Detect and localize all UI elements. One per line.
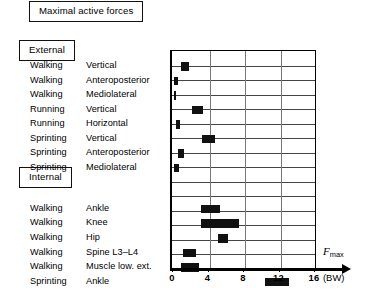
bar-3: [192, 106, 204, 115]
plot-area: [170, 50, 316, 268]
bar-0: [181, 62, 189, 71]
row-measure: Vertical: [86, 102, 117, 117]
axis-variable-label: Fmax: [323, 245, 344, 259]
row-label-walking-spine-l3-l4: WalkingSpine L3–L4: [30, 245, 180, 260]
grid-line-vertical-12: [281, 51, 282, 268]
row-label-sprinting-mediolateral: SprintingMediolateral: [30, 160, 180, 175]
grid-line-vertical-4: [210, 51, 211, 268]
grid-line-horizontal: [172, 124, 315, 125]
row-activity: Sprinting: [30, 145, 67, 160]
grid-line-horizontal: [172, 66, 315, 67]
bar-6: [178, 149, 184, 158]
row-label-running-horizontal: RunningHorizontal: [30, 116, 180, 131]
row-activity: Walking: [30, 73, 63, 88]
row-activity: Walking: [30, 201, 63, 216]
row-activity: Walking: [30, 215, 63, 230]
grid-line-horizontal: [172, 225, 315, 226]
row-label-walking-anteroposterior: WalkingAnteroposterior: [30, 73, 180, 88]
grid-line-horizontal: [172, 196, 315, 197]
row-activity: Running: [30, 102, 65, 117]
row-measure: Vertical: [86, 131, 117, 146]
row-measure: Anteroposterior: [86, 145, 150, 160]
row-label-walking-ankle: WalkingAnkle: [30, 201, 180, 216]
bar-7: [174, 164, 179, 173]
row-activity: Sprinting: [30, 160, 67, 175]
row-label-walking-muscle-low-ext: WalkingMuscle low. ext.: [30, 259, 180, 274]
axis-variable-symbol: F: [323, 245, 330, 257]
x-axis-line: [170, 268, 345, 271]
row-activity: Walking: [30, 58, 63, 73]
grid-line-horizontal: [172, 240, 315, 241]
grid-line-horizontal: [172, 80, 315, 81]
row-label-sprinting-ankle: SprintingAnkle: [30, 274, 180, 289]
row-measure: Vertical: [86, 58, 117, 73]
grid-line-horizontal: [172, 211, 315, 212]
row-label-sprinting-anteroposterior: SprintingAnteroposterior: [30, 145, 180, 160]
row-measure: Spine L3–L4: [86, 245, 138, 260]
grid-line-vertical-8: [245, 51, 246, 268]
grid-line-horizontal: [172, 182, 315, 183]
x-tick-label-0: 0: [169, 272, 174, 283]
row-activity: Walking: [30, 259, 63, 274]
row-activity: Running: [30, 116, 65, 131]
grid-line-horizontal: [172, 153, 315, 154]
row-measure: Anteroposterior: [86, 73, 150, 88]
row-measure: Hip: [86, 230, 100, 245]
grid-line-horizontal: [172, 95, 315, 96]
bar-9: [201, 219, 239, 228]
row-measure: Mediolateral: [86, 160, 137, 175]
bar-11: [183, 249, 196, 258]
row-activity: Sprinting: [30, 131, 67, 146]
axis-unit-label: (BW): [323, 272, 344, 283]
row-label-walking-mediolateral: WalkingMediolateral: [30, 87, 180, 102]
row-measure: Muscle low. ext.: [86, 259, 152, 274]
row-measure: Ankle: [86, 201, 109, 216]
row-activity: Walking: [30, 245, 63, 260]
axis-variable-subscript: max: [330, 250, 344, 259]
row-activity: Walking: [30, 87, 63, 102]
row-label-walking-knee: WalkingKnee: [30, 215, 180, 230]
row-measure: Ankle: [86, 274, 109, 289]
figure-title-box: Maximal active forces: [29, 1, 143, 22]
x-tick-label-8: 8: [240, 272, 245, 283]
bar-4: [176, 120, 180, 129]
row-label-walking-hip: WalkingHip: [30, 230, 180, 245]
x-tick-label-12: 12: [273, 272, 284, 283]
section-heading-external-text: External: [29, 44, 65, 55]
bar-2: [174, 91, 176, 100]
figure-title-text: Maximal active forces: [39, 5, 133, 16]
row-label-sprinting-vertical: SprintingVertical: [30, 131, 180, 146]
chart: Fmax (BW) 0481216: [170, 50, 318, 272]
row-activity: Sprinting: [30, 274, 67, 289]
row-measure: Mediolateral: [86, 87, 137, 102]
grid-line-horizontal: [172, 167, 315, 168]
figure-root: Maximal active forces External Internal …: [0, 0, 369, 295]
row-label-running-vertical: RunningVertical: [30, 102, 180, 117]
x-tick-label-4: 4: [205, 272, 210, 283]
bar-1: [174, 77, 178, 86]
row-activity: Walking: [30, 230, 63, 245]
bar-5: [202, 135, 214, 144]
row-measure: Horizontal: [86, 116, 128, 131]
row-label-walking-vertical: WalkingVertical: [30, 58, 180, 73]
x-tick-label-16: 16: [309, 272, 320, 283]
bar-8: [201, 205, 221, 214]
grid-line-horizontal: [172, 138, 315, 139]
bar-10: [218, 234, 228, 243]
row-measure: Knee: [86, 215, 108, 230]
